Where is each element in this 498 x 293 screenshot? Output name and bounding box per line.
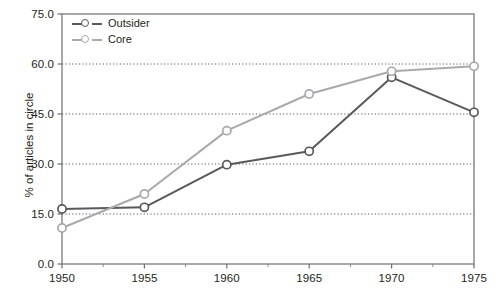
y-tick-label-15: 15.0 <box>0 208 54 220</box>
x-tick-label-1975: 1975 <box>461 272 487 284</box>
data-point-core-1965 <box>305 90 313 98</box>
plot-border <box>62 14 474 264</box>
data-point-core-1975 <box>470 62 478 70</box>
data-point-core-1960 <box>223 127 231 135</box>
legend-marker-icon-outsider <box>72 17 102 29</box>
legend-label: Outsider <box>108 17 150 29</box>
x-tick-label-1970: 1970 <box>379 272 405 284</box>
data-point-outsider-1955 <box>140 203 148 211</box>
legend-item-core[interactable]: Core <box>72 32 150 46</box>
x-tick-label-1950: 1950 <box>49 272 75 284</box>
legend-marker-icon-core <box>72 33 102 45</box>
data-point-outsider-1975 <box>470 108 478 116</box>
data-point-core-1955 <box>140 190 148 198</box>
series-line-core <box>62 66 474 228</box>
x-tick-label-1960: 1960 <box>214 272 240 284</box>
x-tick-marks-group <box>58 14 475 269</box>
legend-label: Core <box>108 33 132 45</box>
x-tick-label-1955: 1955 <box>131 272 157 284</box>
data-point-outsider-1965 <box>305 147 313 155</box>
x-tick-label-1965: 1965 <box>296 272 322 284</box>
chart-legend: OutsiderCore <box>72 16 150 46</box>
y-axis-title: % of articles in circle <box>23 70 35 220</box>
y-tick-label-30: 30.0 <box>0 158 54 170</box>
data-point-outsider-1960 <box>223 161 231 169</box>
y-tick-label-45: 45.0 <box>0 108 54 120</box>
y-tick-label-75: 75.0 <box>0 8 54 20</box>
y-tick-label-60: 60.0 <box>0 58 54 70</box>
data-point-outsider-1950 <box>58 205 66 213</box>
series-lines-group <box>62 66 474 228</box>
data-point-core-1950 <box>58 224 66 232</box>
plot-frame <box>62 14 474 264</box>
legend-item-outsider[interactable]: Outsider <box>72 16 150 30</box>
series-line-outsider <box>62 77 474 209</box>
y-tick-label-0: 0.0 <box>0 258 54 270</box>
data-point-core-1970 <box>388 67 396 75</box>
line-chart: % of articles in circle 0.015.030.045.06… <box>0 0 498 293</box>
